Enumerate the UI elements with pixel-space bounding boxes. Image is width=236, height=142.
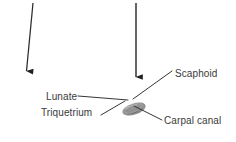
left-pointer-arrow <box>27 3 34 71</box>
pointer-arrows-group <box>27 3 137 77</box>
label-carpal-canal: Carpal canal <box>164 115 221 126</box>
label-triquetrium: Triquetrium <box>41 107 92 118</box>
label-lunate: Lunate <box>46 91 77 102</box>
anatomy-figure: Scaphoid Lunate Triquetrium Carpal canal <box>0 0 236 142</box>
scaphoid-leader <box>133 71 172 99</box>
lunate-leader <box>78 96 128 100</box>
triquetrium-leader <box>101 101 125 115</box>
carpal-canal-ellipse <box>121 100 147 118</box>
label-scaphoid: Scaphoid <box>175 68 218 79</box>
